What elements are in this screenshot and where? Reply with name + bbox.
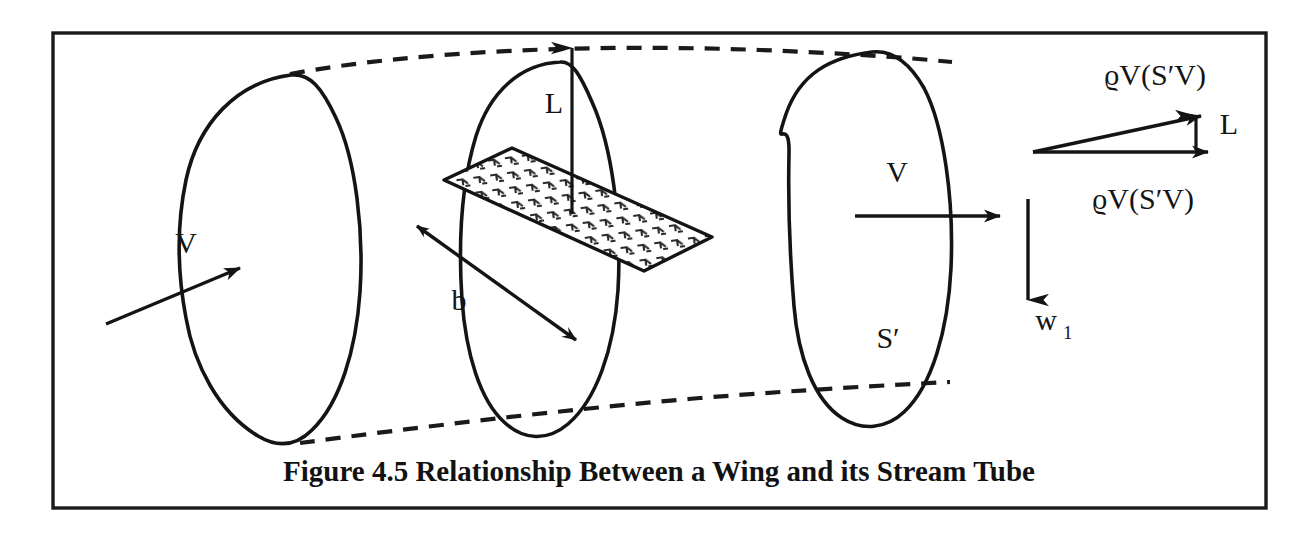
wing-stream-tube-diagram: V L b V S′ w 1 ϱV(S′V [0, 0, 1310, 540]
downwash-subscript: 1 [1063, 322, 1073, 343]
downstream-area-label: S′ [876, 321, 899, 354]
span-label: b [452, 283, 467, 316]
figure-container: V L b V S′ w 1 ϱV(S′V [0, 0, 1310, 540]
upstream-velocity-label: V [175, 226, 197, 259]
momentum-top-label: ϱV(S′V) [1104, 58, 1206, 92]
downwash-label: w [1035, 303, 1057, 336]
lift-vector-label: L [1220, 107, 1238, 140]
downstream-velocity-label: V [886, 155, 908, 188]
figure-caption: Figure 4.5 Relationship Between a Wing a… [283, 455, 1035, 487]
momentum-bottom-label: ϱV(S′V) [1092, 182, 1194, 216]
lift-label: L [545, 86, 563, 119]
